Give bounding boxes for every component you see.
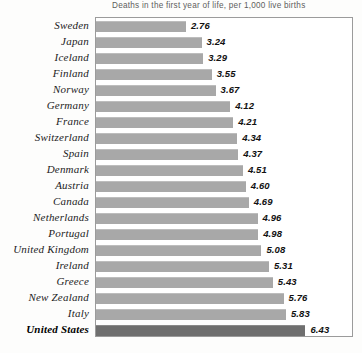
bar — [96, 37, 202, 49]
bar-value-label: 4.98 — [263, 228, 282, 239]
bar-category-label: Austria — [0, 179, 89, 191]
bar-value-label: 3.24 — [207, 36, 226, 47]
bar — [96, 117, 233, 129]
bar-value-label: 4.60 — [251, 180, 270, 191]
bar-row: Spain4.37 — [0, 146, 362, 162]
bar-row: Norway3.67 — [0, 82, 362, 98]
bar-category-label: Canada — [0, 195, 89, 207]
bar-value-label: 2.76 — [191, 20, 210, 31]
bar — [96, 133, 237, 145]
bar-row: Portugal4.98 — [0, 226, 362, 242]
bar-category-label: France — [0, 115, 89, 127]
bar-row: United States6.43 — [0, 322, 362, 338]
bar-category-label: Netherlands — [0, 211, 89, 223]
bar-row: Germany4.12 — [0, 98, 362, 114]
bar-value-label: 5.83 — [291, 308, 310, 319]
bar — [96, 101, 230, 113]
bar — [96, 53, 203, 65]
bar-row: Switzerland4.34 — [0, 130, 362, 146]
bar — [96, 149, 238, 161]
bar — [96, 325, 305, 337]
bar-category-label: Spain — [0, 147, 89, 159]
bar-row: Greece5.43 — [0, 274, 362, 290]
bar-row: United Kingdom5.08 — [0, 242, 362, 258]
bar-category-label: United States — [0, 323, 89, 335]
bar-category-label: Italy — [0, 307, 89, 319]
bar-category-label: Sweden — [0, 19, 89, 31]
bar-row: France4.21 — [0, 114, 362, 130]
bar — [96, 229, 258, 241]
bar-value-label: 4.21 — [238, 116, 257, 127]
bar-row: Japan3.24 — [0, 34, 362, 50]
bar-row: Canada4.69 — [0, 194, 362, 210]
bar — [96, 69, 212, 81]
bar-category-label: Portugal — [0, 227, 89, 239]
bar — [96, 197, 249, 209]
bar-category-label: Japan — [0, 35, 89, 47]
bar-row: Iceland3.29 — [0, 50, 362, 66]
bar — [96, 21, 186, 33]
bar — [96, 213, 258, 225]
bar-category-label: United Kingdom — [0, 243, 89, 255]
bar-value-label: 5.08 — [266, 244, 285, 255]
bar-value-label: 4.37 — [243, 148, 262, 159]
bar-value-label: 5.43 — [278, 276, 297, 287]
bar-row: Netherlands4.96 — [0, 210, 362, 226]
bar-category-label: Finland — [0, 67, 89, 79]
bar-value-label: 5.31 — [274, 260, 293, 271]
bar-value-label: 3.55 — [217, 68, 236, 79]
bar-category-label: Norway — [0, 83, 89, 95]
bar-row: Sweden2.76 — [0, 18, 362, 34]
bar-row: Denmark4.51 — [0, 162, 362, 178]
chart-page: Deaths in the first year of life, per 1,… — [0, 0, 362, 353]
bar-row: Italy5.83 — [0, 306, 362, 322]
bar — [96, 165, 243, 177]
chart-title: Deaths in the first year of life, per 1,… — [112, 1, 306, 10]
bar — [96, 261, 269, 273]
bar-row: Austria4.60 — [0, 178, 362, 194]
bar-row: Ireland5.31 — [0, 258, 362, 274]
bar — [96, 309, 286, 321]
bar-category-label: Greece — [0, 275, 89, 287]
bar-row: New Zealand5.76 — [0, 290, 362, 306]
bar-category-label: Germany — [0, 99, 89, 111]
bar-value-label: 4.69 — [254, 196, 273, 207]
bar-value-label: 4.96 — [263, 212, 282, 223]
bar-value-label: 4.12 — [235, 100, 254, 111]
bar-value-label: 3.67 — [221, 84, 240, 95]
bar — [96, 277, 273, 289]
bar-value-label: 6.43 — [310, 324, 329, 335]
bar-category-label: Switzerland — [0, 131, 89, 143]
bar-value-label: 3.29 — [208, 52, 227, 63]
bar-category-label: New Zealand — [0, 291, 89, 303]
bar-value-label: 4.34 — [242, 132, 261, 143]
bar — [96, 181, 246, 193]
bar-category-label: Ireland — [0, 259, 89, 271]
bar-row: Finland3.55 — [0, 66, 362, 82]
bar — [96, 245, 261, 257]
bar-category-label: Denmark — [0, 163, 89, 175]
bar — [96, 85, 216, 97]
bar-value-label: 5.76 — [289, 292, 308, 303]
bar-category-label: Iceland — [0, 51, 89, 63]
bar-value-label: 4.51 — [248, 164, 267, 175]
bar-rows: Sweden2.76Japan3.24Iceland3.29Finland3.5… — [0, 17, 362, 337]
bar — [96, 293, 284, 305]
